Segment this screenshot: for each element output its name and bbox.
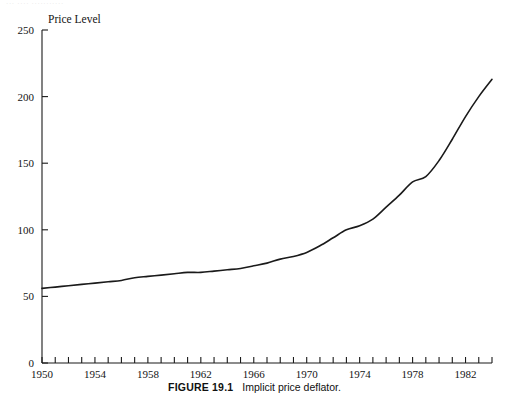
- y-axis-tick-label: 0: [0, 357, 34, 369]
- x-axis-tick-label: 1954: [84, 368, 106, 380]
- y-axis-tick-label: 100: [0, 224, 34, 236]
- figure-caption-number: FIGURE 19.1: [168, 381, 233, 393]
- x-axis-tick-label: 1978: [402, 368, 424, 380]
- x-axis-tick-label: 1982: [455, 368, 477, 380]
- figure-caption: FIGURE 19.1Implicit price deflator.: [0, 381, 509, 393]
- y-axis-tick-label: 200: [0, 91, 34, 103]
- x-axis-tick-label: 1966: [243, 368, 265, 380]
- x-axis-tick-label: 1962: [190, 368, 212, 380]
- figure-caption-text: Implicit price deflator.: [242, 381, 341, 393]
- implicit-price-deflator-chart: [0, 0, 509, 407]
- x-axis-tick-label: 1950: [31, 368, 53, 380]
- y-axis-label: Price Level: [48, 13, 101, 25]
- y-axis-tick-label: 150: [0, 157, 34, 169]
- figure-container: ··· ···· ··········· Price Level 0501001…: [0, 0, 509, 407]
- data-series-line: [42, 79, 492, 288]
- y-axis-tick-label: 50: [0, 290, 34, 302]
- x-axis-tick-label: 1970: [296, 368, 318, 380]
- y-axis-tick-label: 250: [0, 24, 34, 36]
- x-axis-tick-label: 1974: [349, 368, 371, 380]
- x-axis-tick-label: 1958: [137, 368, 159, 380]
